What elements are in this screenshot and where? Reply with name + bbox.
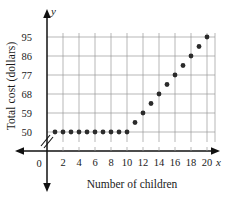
y-axis-arrow-up-icon — [43, 9, 51, 18]
data-point — [85, 130, 90, 135]
axis-break-mark — [44, 137, 53, 148]
data-point — [205, 35, 210, 40]
data-points — [53, 35, 210, 135]
data-point — [77, 130, 82, 135]
data-point — [69, 130, 74, 135]
data-point — [141, 111, 146, 116]
data-point — [117, 130, 122, 135]
data-point — [181, 63, 186, 68]
data-point — [93, 130, 98, 135]
plot-area — [0, 0, 231, 199]
data-point — [101, 130, 106, 135]
data-point — [53, 130, 58, 135]
x-axis-arrow-right-icon — [211, 147, 220, 155]
axis-break-mark — [41, 135, 50, 146]
data-point — [125, 130, 130, 135]
data-point — [61, 130, 66, 135]
data-point — [133, 120, 138, 125]
x-axis-arrow-left-icon — [15, 147, 24, 155]
scatter-chart: Total cost (dollars) Number of children … — [0, 0, 231, 199]
data-point — [189, 54, 194, 59]
data-point — [197, 44, 202, 49]
y-axis-arrow-down-icon — [43, 183, 51, 192]
data-point — [173, 73, 178, 78]
gridlines — [47, 33, 215, 142]
data-point — [157, 92, 162, 97]
data-point — [109, 130, 114, 135]
data-point — [149, 101, 154, 106]
axes — [15, 9, 220, 192]
data-point — [165, 82, 170, 87]
